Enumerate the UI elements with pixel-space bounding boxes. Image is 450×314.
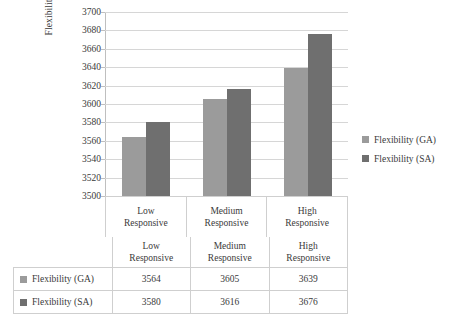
y-axis-tick-label: 3560	[82, 136, 101, 146]
x-axis-category-label: LowResponsive	[105, 196, 186, 237]
y-axis-tick-label: 3700	[82, 7, 101, 17]
table-value-cell: 3564	[112, 268, 191, 291]
table-row: Flexibility (SA)358036163676	[14, 291, 348, 314]
y-axis-tick-label: 3520	[82, 173, 101, 183]
x-axis-category-label-line: Medium	[210, 205, 242, 217]
table-series-label: Flexibility (SA)	[32, 297, 92, 307]
legend-item[interactable]: Flexibility (GA)	[362, 130, 448, 149]
table-column-header-line: High	[270, 240, 348, 252]
table-column-header: HighResponsive	[269, 237, 348, 268]
table-row: Flexibility (GA)356436053639	[14, 268, 348, 291]
y-axis-tick-label: 3580	[82, 117, 101, 127]
y-axis-tick-label: 3620	[82, 81, 101, 91]
y-axis-tick-label: 3540	[82, 154, 101, 164]
x-axis-category-label: HighResponsive	[266, 196, 348, 237]
legend-item[interactable]: Flexibility (SA)	[362, 149, 448, 168]
data-table-body: LowResponsiveMediumResponsiveHighRespons…	[14, 237, 348, 314]
y-axis-title: Flexibility (Units)	[44, 0, 58, 68]
bar	[227, 89, 251, 196]
plot-canvas	[105, 12, 348, 196]
table-value-cell: 3580	[112, 291, 191, 314]
legend-item-label: Flexibility (SA)	[374, 154, 434, 164]
x-axis-category-label-line: High	[298, 205, 317, 217]
x-axis-category-label-line: Responsive	[205, 217, 249, 229]
table-value-cell: 3676	[269, 291, 348, 314]
bar	[284, 68, 308, 196]
table-series-label-cell: Flexibility (SA)	[14, 291, 113, 314]
table-value-cell: 3605	[191, 268, 270, 291]
y-axis-tick-label: 3680	[82, 25, 101, 35]
table-color-swatch-icon	[20, 276, 27, 283]
legend-item-label: Flexibility (GA)	[374, 135, 436, 145]
chart-legend: Flexibility (GA)Flexibility (SA)	[362, 130, 448, 168]
legend-color-swatch-icon	[362, 155, 369, 162]
bar	[203, 99, 227, 196]
table-series-label-cell: Flexibility (GA)	[14, 268, 113, 291]
y-axis-tick-labels: 3700368036603640362036003580356035403520…	[58, 12, 104, 208]
table-column-header-line: Medium	[191, 240, 269, 252]
x-axis-category-label-line: Responsive	[124, 217, 168, 229]
x-axis-category-label-line: Responsive	[285, 217, 329, 229]
legend-color-swatch-icon	[362, 136, 369, 143]
table-column-header: MediumResponsive	[191, 237, 270, 268]
bar	[308, 34, 332, 196]
chart-plot-region: Flexibility (Units) 37003680366036403620…	[0, 0, 450, 216]
y-axis-tick-label: 3500	[82, 191, 101, 201]
bar	[146, 122, 170, 196]
table-header-row: LowResponsiveMediumResponsiveHighRespons…	[14, 237, 348, 268]
table-column-header: LowResponsive	[112, 237, 191, 268]
y-axis-tick-label: 3600	[82, 99, 101, 109]
bar-series-container	[105, 12, 348, 196]
table-color-swatch-icon	[20, 299, 27, 306]
x-axis-category-labels: LowResponsiveMediumResponsiveHighRespons…	[105, 196, 348, 237]
x-axis-category-label-line: Low	[137, 205, 154, 217]
table-column-header-line: Responsive	[113, 252, 191, 264]
y-axis-tick-label: 3640	[82, 62, 101, 72]
table-corner-cell	[14, 237, 113, 268]
table-column-header-line: Responsive	[191, 252, 269, 264]
data-table: LowResponsiveMediumResponsiveHighRespons…	[13, 237, 348, 314]
table-value-cell: 3639	[269, 268, 348, 291]
table-column-header-line: Low	[113, 240, 191, 252]
y-axis-tick-label: 3660	[82, 44, 101, 54]
table-column-header-line: Responsive	[270, 252, 348, 264]
table-series-label: Flexibility (GA)	[32, 274, 94, 284]
x-axis-category-label: MediumResponsive	[186, 196, 267, 237]
bar	[122, 137, 146, 196]
table-value-cell: 3616	[191, 291, 270, 314]
